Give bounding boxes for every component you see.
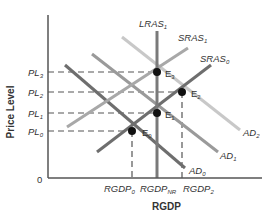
label-sras1: SRAS1	[178, 32, 207, 44]
label-ad1: AD1	[219, 150, 237, 162]
label-ad0: AD0	[188, 165, 206, 177]
point-e0	[128, 127, 136, 135]
ytick-pl2: PL2	[28, 87, 44, 99]
label-ad2: AD2	[242, 127, 260, 139]
ytick-pl1: PL1	[28, 108, 43, 120]
label-lras: LRAS1	[139, 18, 167, 30]
ytick-pl3: PL3	[28, 67, 44, 79]
point-e1	[153, 109, 161, 117]
origin-label: 0	[37, 174, 42, 185]
x-axis-title: RGDP	[152, 201, 181, 212]
label-sras0: SRAS0	[200, 53, 230, 65]
point-e3	[153, 68, 161, 76]
label-e2: E2	[191, 88, 201, 100]
xtick-rgdpnr: RGDPNR	[140, 183, 177, 195]
xtick-rgdp2: RGDP2	[183, 183, 214, 195]
label-e3: E3	[165, 68, 175, 80]
ad-as-diagram: E3 E2 E1 E0 LRAS1 SRAS1 SRAS0 AD2 AD1 AD…	[0, 0, 276, 219]
ytick-pl0: PL0	[28, 126, 44, 138]
label-e0: E0	[142, 127, 152, 139]
xtick-rgdp0: RGDP0	[104, 183, 135, 195]
point-e2	[178, 88, 186, 96]
label-e1: E1	[165, 109, 175, 121]
y-axis-title: Price Level	[5, 85, 16, 138]
